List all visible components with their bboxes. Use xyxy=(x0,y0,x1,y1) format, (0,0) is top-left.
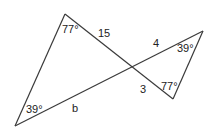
right-bottom-side-label: 3 xyxy=(140,83,146,95)
crossing-segment-2 xyxy=(15,31,203,126)
left-bottom-angle-label: 39° xyxy=(26,103,43,115)
left-top-angle-label: 77° xyxy=(62,23,79,35)
similar-triangles-diagram: 77° 15 39° b 4 39° 3 77° xyxy=(0,0,214,133)
right-bottom-angle-label: 77° xyxy=(161,80,178,92)
left-bottom-side-label: b xyxy=(72,102,78,114)
right-top-side-label: 4 xyxy=(153,37,159,49)
right-top-angle-label: 39° xyxy=(177,42,194,54)
crossing-segment-1 xyxy=(65,14,173,99)
left-top-side-label: 15 xyxy=(98,27,110,39)
